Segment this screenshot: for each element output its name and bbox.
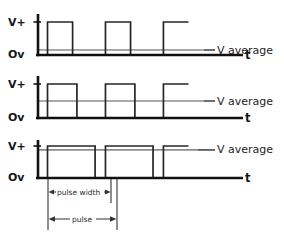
arrow-right-icon bbox=[110, 216, 117, 222]
zero-v-label: Ov bbox=[8, 111, 25, 124]
annotation-pulse-width: pulse width bbox=[49, 186, 111, 198]
arrow-right-icon bbox=[105, 190, 111, 195]
pulse-label: pulse bbox=[72, 215, 93, 224]
pwm-diagram-svg: V+ Ov t V average V+ Ov t V average bbox=[0, 0, 284, 240]
pulse-width-label: pulse width bbox=[57, 188, 100, 197]
panel-low-duty-cycle: V+ Ov t V average bbox=[8, 14, 273, 62]
v-average-label: V average bbox=[217, 143, 273, 156]
time-axis-label: t bbox=[245, 171, 251, 185]
v-plus-label: V+ bbox=[8, 16, 26, 29]
panel-high-duty-cycle: V+ Ov t V average bbox=[8, 140, 273, 185]
arrow-left-icon bbox=[49, 216, 56, 222]
arrow-left-icon bbox=[49, 190, 55, 195]
v-average-label: V average bbox=[217, 95, 273, 108]
pwm-diagram: V+ Ov t V average V+ Ov t V average bbox=[0, 0, 284, 240]
dimension-annotations: pulse width pulse bbox=[48, 179, 117, 230]
annotation-pulse: pulse bbox=[49, 213, 117, 225]
zero-v-label: Ov bbox=[8, 48, 25, 61]
v-plus-label: V+ bbox=[8, 140, 26, 153]
v-plus-label: V+ bbox=[8, 78, 26, 91]
zero-v-label: Ov bbox=[8, 171, 25, 184]
pwm-waveform bbox=[38, 146, 189, 178]
panel-medium-duty-cycle: V+ Ov t V average bbox=[8, 76, 273, 125]
v-average-label: V average bbox=[217, 44, 273, 57]
time-axis-label: t bbox=[245, 111, 251, 125]
